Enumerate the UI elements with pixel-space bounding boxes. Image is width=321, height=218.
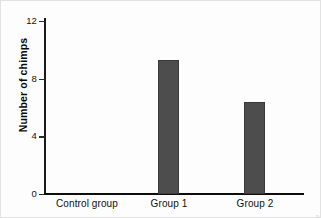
copyright-credit: © Cengage Learning: [314, 215, 319, 218]
plot-area: [45, 21, 303, 194]
x-category-label-group-1: Group 1: [139, 198, 199, 209]
bar-group-2: [244, 102, 265, 194]
y-tick-label-8: 8: [0, 74, 37, 84]
bar-group-1: [158, 60, 179, 194]
y-tick-label-0: 0: [0, 189, 37, 199]
chart-figure: Number of chimps 12 8 4 0 Control group …: [0, 0, 321, 218]
y-tick-label-4: 4: [0, 131, 37, 141]
y-tick-label-12: 12: [0, 16, 37, 26]
y-tick-0: [39, 194, 45, 195]
x-category-label-control-group: Control group: [49, 198, 125, 209]
x-category-label-group-2: Group 2: [225, 198, 285, 209]
